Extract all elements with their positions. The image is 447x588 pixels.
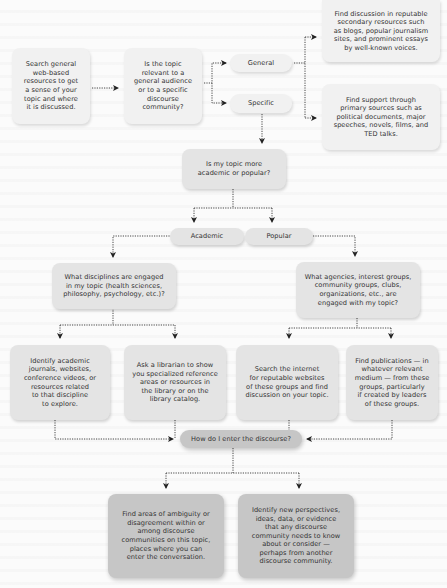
search-general-text: Search general web-based resources to ge…	[24, 60, 78, 112]
academic-or-popular-box: Is my topic more academic or popular?	[182, 149, 286, 189]
agencies-question-box: What agencies, interest groups, communit…	[296, 262, 420, 318]
academic-label: Academic	[191, 232, 224, 241]
find-ambiguity-text: Find areas of ambiguity or disagreement …	[122, 510, 211, 562]
specific-pill: Specific	[230, 94, 292, 113]
identify-perspectives-text: Identify new perspectives, ideas, data, …	[252, 506, 341, 566]
enter-discourse-pill: How do I enter the discourse?	[180, 430, 302, 448]
specific-label: Specific	[248, 99, 274, 108]
find-publications-text: Find publications — in whatever relevant…	[355, 357, 430, 409]
popular-label: Popular	[266, 232, 291, 241]
ask-librarian-text: Ask a librarian to show you specialized …	[132, 361, 218, 404]
search-internet-box: Search the internet for reputable websit…	[236, 345, 338, 420]
general-result-text: Find discussion in reputable secondary r…	[334, 10, 428, 53]
identify-academic-box: Identify academic journals, websites, co…	[10, 345, 110, 420]
identify-perspectives-box: Identify new perspectives, ideas, data, …	[238, 494, 354, 578]
general-label: General	[248, 59, 274, 68]
ask-librarian-box: Ask a librarian to show you specialized …	[124, 345, 226, 420]
disciplines-question-text: What disciplines are engaged in my topic…	[63, 273, 164, 299]
disciplines-question-box: What disciplines are engaged in my topic…	[52, 263, 176, 309]
popular-pill: Popular	[245, 228, 313, 245]
academic-or-popular-text: Is my topic more academic or popular?	[198, 160, 270, 177]
audience-question-box: Is the topic relevant to a general audie…	[124, 48, 202, 124]
specific-result-box: Find support through primary sources suc…	[322, 84, 440, 150]
find-ambiguity-box: Find areas of ambiguity or disagreement …	[108, 494, 224, 578]
audience-question-text: Is the topic relevant to a general audie…	[134, 60, 192, 112]
general-result-box: Find discussion in reputable secondary r…	[322, 0, 440, 62]
enter-discourse-label: How do I enter the discourse?	[191, 435, 291, 444]
specific-result-text: Find support through primary sources suc…	[334, 96, 429, 139]
agencies-question-text: What agencies, interest groups, communit…	[305, 273, 412, 307]
find-publications-box: Find publications — in whatever relevant…	[346, 345, 438, 420]
academic-pill: Academic	[170, 228, 244, 245]
search-general-box: Search general web-based resources to ge…	[12, 48, 90, 124]
identify-academic-text: Identify academic journals, websites, co…	[24, 357, 96, 409]
general-pill: General	[230, 54, 292, 72]
search-internet-text: Search the internet for reputable websit…	[245, 365, 328, 399]
